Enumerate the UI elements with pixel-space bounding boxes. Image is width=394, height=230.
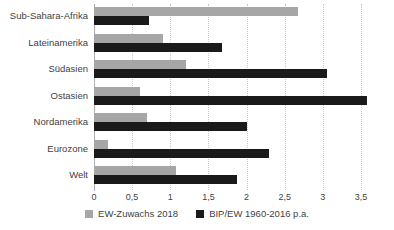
chart-legend: EW-Zuwachs 2018 BIP/EW 1960-2016 p.a. xyxy=(0,208,394,219)
bar-bip-ew xyxy=(94,69,327,78)
x-tick-label: 0 xyxy=(91,192,96,202)
bar-ew-zuwachs xyxy=(94,7,298,16)
x-tick-label: 1 xyxy=(168,192,173,202)
plot-area xyxy=(94,4,380,190)
bar-ew-zuwachs xyxy=(94,140,108,149)
x-tick-label: 2 xyxy=(244,192,249,202)
x-tick-label: 0,5 xyxy=(126,192,139,202)
category-label: Sub-Sahara-Afrika xyxy=(0,11,88,21)
bar-group xyxy=(94,166,380,184)
bar-group xyxy=(94,113,380,131)
legend-item-bip-ew: BIP/EW 1960-2016 p.a. xyxy=(196,208,309,219)
bar-bip-ew xyxy=(94,16,149,25)
x-tick-label: 3 xyxy=(320,192,325,202)
category-label: Lateinamerika xyxy=(0,38,88,48)
legend-swatch-black-icon xyxy=(196,210,204,218)
bar-bip-ew xyxy=(94,96,367,105)
category-label: Nordamerika xyxy=(0,117,88,127)
category-label: Eurozone xyxy=(0,144,88,154)
legend-label: BIP/EW 1960-2016 p.a. xyxy=(209,208,309,219)
x-tick-label: 2,5 xyxy=(278,192,291,202)
bar-ew-zuwachs xyxy=(94,34,163,43)
bar-chart: Sub-Sahara-AfrikaLateinamerikaSüdasienOs… xyxy=(0,0,394,230)
legend-swatch-gray-icon xyxy=(85,210,93,218)
category-label: Ostasien xyxy=(0,91,88,101)
x-tick-label: 1,5 xyxy=(202,192,215,202)
bar-bip-ew xyxy=(94,122,247,131)
bar-group xyxy=(94,60,380,78)
bar-ew-zuwachs xyxy=(94,113,147,122)
category-label: Südasien xyxy=(0,64,88,74)
bar-bip-ew xyxy=(94,43,222,52)
bar-bip-ew xyxy=(94,149,269,158)
category-label: Welt xyxy=(0,170,88,180)
bar-bip-ew xyxy=(94,175,237,184)
legend-item-ew-zuwachs: EW-Zuwachs 2018 xyxy=(85,208,178,219)
bar-group xyxy=(94,87,380,105)
bar-ew-zuwachs xyxy=(94,166,176,175)
x-tick-label: 3,5 xyxy=(355,192,368,202)
bar-ew-zuwachs xyxy=(94,87,140,96)
bar-group xyxy=(94,34,380,52)
bar-group xyxy=(94,140,380,158)
bar-group xyxy=(94,7,380,25)
legend-label: EW-Zuwachs 2018 xyxy=(98,208,178,219)
bar-ew-zuwachs xyxy=(94,60,186,69)
